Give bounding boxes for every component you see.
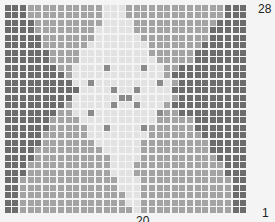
- heatmap-cell: [73, 80, 79, 86]
- heatmap-cell: [81, 35, 87, 41]
- heatmap-cell: [157, 117, 163, 123]
- heatmap-cell: [233, 147, 239, 153]
- heatmap-cell: [66, 117, 72, 123]
- heatmap-cell: [233, 207, 239, 213]
- heatmap-cell: [126, 102, 132, 108]
- heatmap-cell: [217, 207, 223, 213]
- heatmap-cell: [5, 155, 11, 161]
- heatmap-cell: [28, 102, 34, 108]
- heatmap-cell: [111, 87, 117, 93]
- heatmap-cell: [20, 5, 26, 11]
- heatmap-cell: [96, 42, 102, 48]
- heatmap-cell: [104, 155, 110, 161]
- heatmap-cell: [88, 27, 94, 33]
- heatmap-cell: [225, 5, 231, 11]
- heatmap-cell: [50, 102, 56, 108]
- heatmap-cell: [195, 162, 201, 168]
- heatmap-cell: [104, 20, 110, 26]
- heatmap-cell: [81, 12, 87, 18]
- heatmap-cell: [28, 147, 34, 153]
- heatmap-cell: [210, 117, 216, 123]
- heatmap-cell: [225, 162, 231, 168]
- heatmap-cell: [20, 27, 26, 33]
- heatmap-cell: [149, 12, 155, 18]
- heatmap-cell: [73, 57, 79, 63]
- heatmap-cell: [66, 110, 72, 116]
- heatmap-cell: [104, 185, 110, 191]
- heatmap-cell: [73, 42, 79, 48]
- heatmap-cell: [35, 162, 41, 168]
- heatmap-cell: [5, 185, 11, 191]
- heatmap-cell: [187, 5, 193, 11]
- heatmap-cell: [172, 80, 178, 86]
- heatmap-cell: [119, 87, 125, 93]
- heatmap-cell: [66, 72, 72, 78]
- heatmap-cell: [50, 50, 56, 56]
- heatmap-cell: [58, 170, 64, 176]
- heatmap-cell: [111, 117, 117, 123]
- heatmap-cell: [210, 207, 216, 213]
- heatmap-cell: [240, 35, 246, 41]
- heatmap-cell: [240, 27, 246, 33]
- heatmap-cell: [179, 147, 185, 153]
- heatmap-cell: [187, 200, 193, 206]
- heatmap-cell: [50, 72, 56, 78]
- heatmap-cell: [149, 177, 155, 183]
- heatmap-cell: [157, 87, 163, 93]
- heatmap-cell: [35, 27, 41, 33]
- heatmap-cell: [35, 132, 41, 138]
- heatmap-cell: [28, 80, 34, 86]
- heatmap-cell: [141, 125, 147, 131]
- heatmap-cell: [5, 117, 11, 123]
- heatmap-cell: [225, 147, 231, 153]
- heatmap-cell: [81, 102, 87, 108]
- heatmap-cell: [225, 102, 231, 108]
- heatmap-cell: [141, 80, 147, 86]
- heatmap-cell: [81, 132, 87, 138]
- heatmap-cell: [149, 72, 155, 78]
- heatmap-cell: [81, 20, 87, 26]
- heatmap-cell: [217, 72, 223, 78]
- heatmap-cell: [187, 65, 193, 71]
- heatmap-cell: [5, 27, 11, 33]
- heatmap-cell: [119, 125, 125, 131]
- heatmap-cell: [164, 65, 170, 71]
- heatmap-cell: [233, 102, 239, 108]
- heatmap-cell: [28, 110, 34, 116]
- heatmap-cell: [111, 185, 117, 191]
- heatmap-cell: [43, 177, 49, 183]
- heatmap-cell: [240, 162, 246, 168]
- heatmap-cell: [119, 72, 125, 78]
- heatmap-cell: [157, 57, 163, 63]
- heatmap-cell: [43, 35, 49, 41]
- heatmap-cell: [58, 72, 64, 78]
- heatmap-cell: [96, 147, 102, 153]
- heatmap-cell: [96, 177, 102, 183]
- heatmap-cell: [81, 110, 87, 116]
- heatmap-cell: [233, 155, 239, 161]
- heatmap-cell: [179, 162, 185, 168]
- heatmap-cell: [73, 102, 79, 108]
- heatmap-cell: [202, 162, 208, 168]
- heatmap-cell: [240, 20, 246, 26]
- heatmap-cell: [58, 20, 64, 26]
- heatmap-cell: [164, 50, 170, 56]
- heatmap-cell: [202, 200, 208, 206]
- heatmap-cell: [157, 35, 163, 41]
- heatmap-cell: [217, 42, 223, 48]
- heatmap-cell: [164, 192, 170, 198]
- heatmap-cell: [5, 147, 11, 153]
- heatmap-cell: [134, 95, 140, 101]
- heatmap-cell: [172, 132, 178, 138]
- heatmap-cell: [240, 125, 246, 131]
- heatmap-cell: [149, 50, 155, 56]
- heatmap-cell: [28, 72, 34, 78]
- heatmap-cell: [73, 72, 79, 78]
- heatmap-cell: [202, 57, 208, 63]
- heatmap-cell: [81, 5, 87, 11]
- heatmap-cell: [119, 42, 125, 48]
- heatmap-cell: [172, 170, 178, 176]
- heatmap-cell: [179, 125, 185, 131]
- heatmap-cell: [141, 155, 147, 161]
- heatmap-cell: [119, 185, 125, 191]
